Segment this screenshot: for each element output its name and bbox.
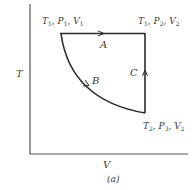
figure-caption: (a): [107, 174, 120, 184]
state-1-label: T1, P1, V1: [42, 16, 84, 27]
path-a-label: A: [99, 39, 107, 50]
state-3-label: T2, P3, V2: [143, 121, 185, 132]
path-b-label: B: [91, 75, 99, 86]
y-axis-label: T: [16, 68, 24, 79]
state-2-label: T1, P2, V2: [138, 16, 180, 27]
tv-diagram: A B C T1, P1, V1 T1, P2, V2 T2, P3, V2 T…: [0, 0, 196, 190]
x-axis-label: V: [103, 159, 112, 170]
path-c-label: C: [130, 67, 138, 78]
